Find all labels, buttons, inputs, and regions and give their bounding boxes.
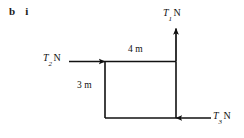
- force-label-t3: T3N: [213, 110, 231, 124]
- force-subscript-t1: 1: [169, 15, 173, 23]
- figure-canvas: bi T1N T2N T3N 4 m 3 m: [0, 0, 244, 138]
- force-unit-t2: N: [54, 52, 61, 63]
- force-diagram-svg: [0, 0, 244, 138]
- dimension-label-top: 4 m: [128, 44, 143, 54]
- force-symbol-t2: T: [43, 52, 49, 63]
- force-label-t2: T2N: [43, 52, 61, 66]
- force-subscript-t3: 3: [219, 118, 223, 126]
- force-symbol-t3: T: [213, 110, 219, 121]
- dimension-label-left: 3 m: [77, 80, 92, 90]
- force-unit-t1: N: [174, 7, 181, 18]
- rectangle-outline: [105, 62, 176, 119]
- force-symbol-t1: T: [163, 7, 169, 18]
- force-unit-t3: N: [224, 110, 231, 121]
- force-subscript-t2: 2: [49, 60, 53, 68]
- force-label-t1: T1N: [163, 7, 181, 21]
